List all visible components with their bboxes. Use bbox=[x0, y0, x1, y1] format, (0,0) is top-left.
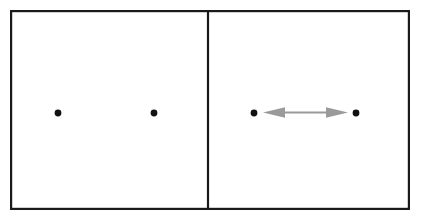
figure-root bbox=[0, 0, 421, 222]
left-panel-dot-1 bbox=[55, 110, 62, 117]
figure-canvas bbox=[0, 0, 421, 222]
outer-rectangle bbox=[11, 11, 409, 209]
left-panel-dot-2 bbox=[151, 110, 158, 117]
right-panel-dot-1 bbox=[251, 110, 258, 117]
right-panel-dot-2 bbox=[353, 110, 360, 117]
